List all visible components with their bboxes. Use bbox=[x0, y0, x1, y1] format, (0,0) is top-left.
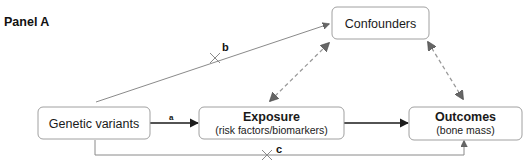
node-outcomes-title: Outcomes bbox=[435, 110, 496, 124]
node-confounders: Confounders bbox=[332, 7, 429, 39]
node-exposure-title: Exposure bbox=[243, 110, 300, 124]
edge-c-label: c bbox=[276, 143, 282, 155]
node-outcomes: Outcomes (bone mass) bbox=[409, 107, 522, 140]
edge-b-label: b bbox=[222, 41, 229, 53]
node-exposure-subtitle: (risk factors/biomarkers) bbox=[215, 124, 328, 136]
node-confounders-title: Confounders bbox=[345, 17, 417, 31]
node-outcomes-subtitle: (bone mass) bbox=[436, 124, 494, 136]
node-genetic-variants: Genetic variants bbox=[38, 107, 150, 139]
edge-b-line bbox=[96, 24, 329, 102]
edge-a: a bbox=[150, 113, 198, 123]
panel-label: Panel A bbox=[4, 15, 49, 29]
node-exposure: Exposure (risk factors/biomarkers) bbox=[199, 107, 344, 139]
edge-b: b bbox=[96, 24, 329, 102]
edge-a-label: a bbox=[169, 113, 174, 122]
edge-confounders-exposure bbox=[270, 43, 329, 101]
edge-b-cross-icon bbox=[210, 53, 220, 63]
edge-c: c bbox=[95, 140, 464, 160]
edge-confounders-outcomes bbox=[428, 42, 463, 99]
mendelian-randomization-diagram: Panel A b c a Confounders Genetic varia bbox=[0, 0, 532, 165]
node-genetic-variants-title: Genetic variants bbox=[49, 117, 139, 131]
